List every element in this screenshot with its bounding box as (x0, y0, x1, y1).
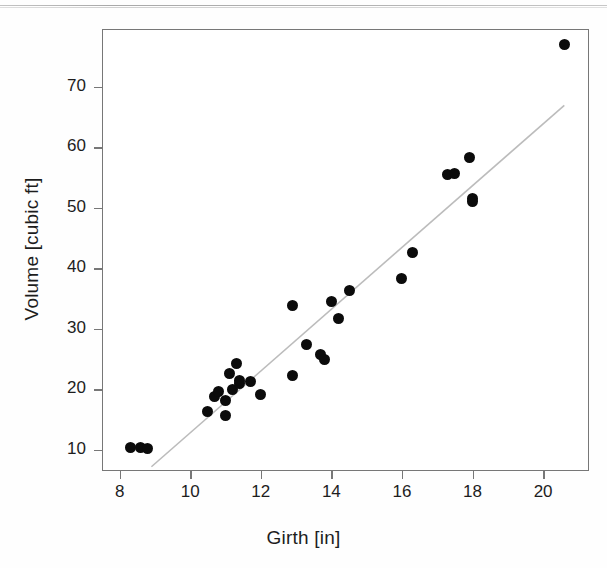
data-point (220, 410, 231, 421)
data-point (396, 273, 407, 284)
scan-artifact-line (0, 5, 607, 6)
data-point (559, 39, 570, 50)
x-tick-mark (331, 471, 333, 479)
y-tick-mark (94, 329, 102, 331)
data-point (464, 152, 475, 163)
data-point (220, 395, 231, 406)
x-tick-mark (120, 471, 122, 479)
data-point (301, 339, 312, 350)
data-point (255, 389, 266, 400)
data-point (467, 196, 478, 207)
data-point (202, 406, 213, 417)
regression-line (102, 29, 589, 471)
y-tick-label: 60 (44, 136, 86, 156)
figure-root: 8101214161820 10203040506070 Girth [in] … (0, 0, 607, 568)
x-tick-mark (543, 471, 545, 479)
scan-artifact-line-secondary (0, 7, 607, 8)
x-tick-label: 14 (311, 482, 351, 502)
x-tick-mark (190, 471, 192, 479)
x-tick-label: 20 (523, 482, 563, 502)
y-tick-label: 30 (44, 318, 86, 338)
x-tick-label: 18 (453, 482, 493, 502)
y-tick-label: 50 (44, 197, 86, 217)
x-tick-mark (473, 471, 475, 479)
y-tick-mark (94, 268, 102, 270)
data-point (333, 313, 344, 324)
y-tick-mark (94, 208, 102, 210)
x-tick-mark (402, 471, 404, 479)
y-tick-mark (94, 87, 102, 89)
data-point (231, 358, 242, 369)
data-point (407, 247, 418, 258)
y-tick-mark (94, 450, 102, 452)
y-tick-mark (94, 389, 102, 391)
data-point (287, 370, 298, 381)
x-axis-title: Girth [in] (0, 527, 607, 549)
y-axis-title: Volume [cubic ft] (21, 99, 43, 399)
data-point (326, 296, 337, 307)
y-tick-label: 10 (44, 439, 86, 459)
data-point (125, 442, 136, 453)
y-tick-label: 20 (44, 378, 86, 398)
x-tick-label: 10 (170, 482, 210, 502)
y-tick-mark (94, 147, 102, 149)
data-point (287, 300, 298, 311)
x-tick-label: 8 (100, 482, 140, 502)
plot-canvas (102, 29, 589, 471)
data-point (344, 285, 355, 296)
data-point (319, 354, 330, 365)
data-point (449, 168, 460, 179)
y-tick-label: 40 (44, 257, 86, 277)
y-tick-label: 70 (44, 76, 86, 96)
data-point (142, 443, 153, 454)
data-point (245, 376, 256, 387)
data-point (224, 368, 235, 379)
x-tick-label: 12 (241, 482, 281, 502)
x-tick-mark (261, 471, 263, 479)
x-tick-label: 16 (382, 482, 422, 502)
